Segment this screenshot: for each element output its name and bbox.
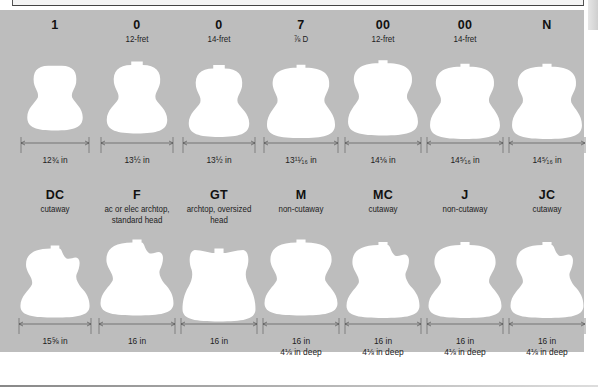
model-subtitle: ac or elec archtop, standard head <box>92 204 182 226</box>
model-name: 0 <box>178 18 260 32</box>
model-subtitle: archtop, oversized head <box>174 204 264 226</box>
model-name: 7 <box>260 18 342 32</box>
model-subtitle: 14-fret <box>420 34 510 45</box>
depth-label: 4⅛ in deep <box>429 346 501 357</box>
width-label: 16 in <box>347 335 419 346</box>
width-label: 13½ in <box>101 154 173 165</box>
model-subtitle: 14-fret <box>174 34 264 45</box>
model-subtitle: cutaway <box>338 204 428 215</box>
depth-label: 4⅛ in deep <box>511 346 583 357</box>
model-subtitle: cutaway <box>502 204 592 215</box>
model-name: F <box>96 188 178 202</box>
width-label: 13½ in <box>183 154 255 165</box>
width-dimension: 14⅛ in <box>342 137 424 163</box>
subtitle-line-2: standard head <box>92 215 182 226</box>
width-label: 14⅛ in <box>347 154 419 165</box>
guitar-body-archtop-icon <box>181 242 257 325</box>
width-dimension: 13½ in <box>178 137 260 163</box>
width-dimension: 14⁵⁄₁₆ in <box>424 137 506 163</box>
subtitle-line-1: cutaway <box>502 204 592 215</box>
guitar-body-icon <box>509 62 585 140</box>
body-card-JC: JC cutaway 16 in 4⅛ in deep <box>506 180 588 352</box>
guitar-body-cutaway-icon <box>509 235 585 325</box>
model-name: 1 <box>14 18 96 32</box>
body-card-DC: DC cutaway 15⅝ in <box>14 180 96 352</box>
body-card-1: 1 12¾ in <box>14 10 96 180</box>
body-card-00-14-fret: 00 14-fret 14⁵⁄₁₆ in <box>424 10 506 180</box>
subtitle-line-1: cutaway <box>10 204 100 215</box>
bottom-row: DC cutaway 15⅝ in F ac or elec archtop, … <box>0 180 584 352</box>
width-dimension: 16 in <box>178 318 260 352</box>
width-dimension: 14⁵⁄₁₆ in <box>506 137 588 163</box>
subtitle-line-1: non-cutaway <box>420 204 510 215</box>
guitar-body-cutaway-icon <box>345 235 421 325</box>
width-dimension: 13¹¹⁄₁₆ in <box>260 137 342 163</box>
top-frame-edge <box>12 0 584 6</box>
model-name: 00 <box>424 18 506 32</box>
body-card-MC: MC cutaway 16 in 4⅛ in deep <box>342 180 424 352</box>
guitar-body-icon <box>345 55 421 140</box>
subtitle-line-1: cutaway <box>338 204 428 215</box>
width-dimension: 16 in 4⅛ in deep <box>342 318 424 352</box>
depth-label: 4⅛ in deep <box>265 346 337 357</box>
body-card-F: F ac or elec archtop, standard head 16 i… <box>96 180 178 352</box>
body-card-0-14-fret: 0 14-fret 13½ in <box>178 10 260 180</box>
width-label: 12¾ in <box>19 154 91 165</box>
model-name: JC <box>506 188 588 202</box>
model-name: J <box>424 188 506 202</box>
body-card-00-12-fret: 00 12-fret 14⅛ in <box>342 10 424 180</box>
model-subtitle: non-cutaway <box>420 204 510 215</box>
guitar-body-icon <box>427 62 503 140</box>
model-subtitle: non-cutaway <box>256 204 346 215</box>
width-dimension: 16 in 4⅛ in deep <box>260 318 342 352</box>
model-name: 00 <box>342 18 424 32</box>
right-frame-edge <box>588 0 598 30</box>
body-card-J: J non-cutaway 16 in 4⅛ in deep <box>424 180 506 352</box>
model-name: GT <box>178 188 260 202</box>
guitar-body-cutaway-icon <box>99 230 175 325</box>
width-label: 16 in <box>183 335 255 346</box>
guitar-body-icon <box>101 55 173 140</box>
body-card-GT: GT archtop, oversized head 16 in <box>178 180 260 352</box>
subtitle-line-2: head <box>174 215 264 226</box>
width-label: 16 in <box>511 335 583 346</box>
width-label: 13¹¹⁄₁₆ in <box>265 154 337 165</box>
guitar-body-icon <box>183 62 255 140</box>
model-name: M <box>260 188 342 202</box>
model-name: DC <box>14 188 96 202</box>
body-card-N: N 14⁵⁄₁₆ in <box>506 10 588 180</box>
guitar-body-cutaway-icon <box>19 238 91 325</box>
guitar-body-icon <box>263 230 339 325</box>
body-card-7: 7 ⅞ D 13¹¹⁄₁₆ in <box>260 10 342 180</box>
guitar-body-icon <box>22 55 88 140</box>
width-label: 14⁵⁄₁₆ in <box>511 154 583 165</box>
model-subtitle: ⅞ D <box>256 34 346 45</box>
subtitle-line-1: ac or elec archtop, <box>92 204 182 215</box>
model-subtitle: 12-fret <box>338 34 428 45</box>
model-subtitle: 12-fret <box>92 34 182 45</box>
width-label: 15⅝ in <box>19 335 91 346</box>
width-dimension: 16 in 4⅛ in deep <box>424 318 506 352</box>
body-card-M: M non-cutaway 16 in 4⅛ in deep <box>260 180 342 352</box>
width-dimension: 12¾ in <box>14 137 96 163</box>
model-name: 0 <box>96 18 178 32</box>
width-label: 14⁵⁄₁₆ in <box>429 154 501 165</box>
width-dimension: 16 in 4⅛ in deep <box>506 318 588 352</box>
width-dimension: 16 in <box>96 318 178 352</box>
subtitle-line-1: archtop, oversized <box>174 204 264 215</box>
width-dimension: 13½ in <box>96 137 178 163</box>
model-name: N <box>506 18 588 32</box>
body-card-0-12-fret: 0 12-fret 13½ in <box>96 10 178 180</box>
depth-label: 4⅛ in deep <box>347 346 419 357</box>
guitar-body-icon <box>264 62 338 140</box>
width-label: 16 in <box>265 335 337 346</box>
width-dimension: 15⅝ in <box>14 318 96 352</box>
width-label: 16 in <box>429 335 501 346</box>
model-subtitle: cutaway <box>10 204 100 215</box>
model-name: MC <box>342 188 424 202</box>
guitar-body-icon <box>427 235 503 325</box>
width-label: 16 in <box>101 335 173 346</box>
top-row: 1 12¾ in 0 12-fret 13½ in 0 14-fret 13½ … <box>0 10 584 180</box>
subtitle-line-1: non-cutaway <box>256 204 346 215</box>
